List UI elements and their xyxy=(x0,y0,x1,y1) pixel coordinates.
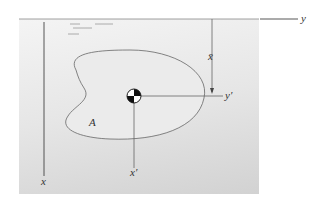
centroid-icon xyxy=(127,89,141,103)
diagram-canvas: y x A y′ x′ x̄ xyxy=(0,0,320,206)
centroid-depth-label: x̄ xyxy=(207,50,213,62)
centroid-horizontal-label: y′ xyxy=(224,89,233,101)
free-surface-marks xyxy=(68,24,113,34)
arrow-down-icon xyxy=(210,88,214,94)
centroid-vertical-label: x′ xyxy=(129,166,138,178)
y-axis-label: y xyxy=(300,12,306,24)
x-axis-label: x xyxy=(40,175,46,187)
area-label: A xyxy=(88,116,96,128)
